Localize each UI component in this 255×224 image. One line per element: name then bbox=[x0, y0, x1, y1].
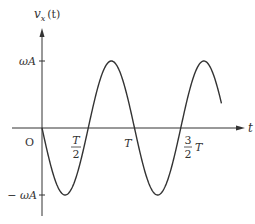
svg-text:2: 2 bbox=[185, 148, 192, 161]
y-tick-label-top: ωA bbox=[19, 55, 36, 68]
svg-text:T: T bbox=[195, 141, 204, 154]
svg-text:T: T bbox=[72, 134, 81, 147]
x-axis-label: t bbox=[248, 121, 253, 135]
origin-label: O bbox=[25, 136, 34, 149]
svg-text:3: 3 bbox=[185, 134, 192, 147]
svg-text:2: 2 bbox=[73, 148, 80, 161]
x-axis-arrow-icon bbox=[236, 126, 245, 131]
x-tick-label-half: T 2 bbox=[71, 134, 81, 161]
x-tick-label-three-half: 3 2 T bbox=[184, 134, 204, 161]
x-tick-label-period: T bbox=[124, 137, 133, 150]
y-tick-label-bottom: − ωA bbox=[7, 189, 37, 202]
y-axis-arrow-icon bbox=[40, 28, 45, 37]
y-axis-label: vx(t) bbox=[34, 7, 60, 23]
chart-canvas: vx(t) t O ωA − ωA T 2 T 3 2 T bbox=[0, 0, 255, 224]
